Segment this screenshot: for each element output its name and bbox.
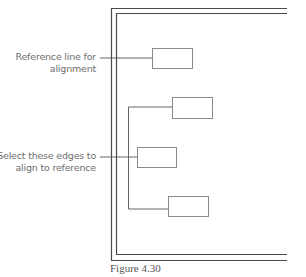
box-bottom	[169, 197, 209, 217]
inner-frame-line	[117, 14, 288, 255]
figure-caption: Figure 4.30	[110, 262, 161, 274]
reference-box	[153, 49, 193, 69]
select-edges-callout-line1: Select these edges to	[0, 150, 96, 162]
page-frame	[112, 9, 288, 261]
reference-callout-line2: alignment	[16, 63, 97, 75]
outer-frame-line	[112, 9, 288, 261]
box-top	[173, 98, 213, 119]
box-middle	[138, 148, 177, 168]
select-edges-callout-line2: align to reference	[0, 162, 96, 174]
reference-callout-label: Reference line for alignment	[16, 51, 97, 75]
select-edges-callout-label: Select these edges to align to reference	[0, 150, 96, 174]
reference-callout-line1: Reference line for	[16, 51, 97, 63]
